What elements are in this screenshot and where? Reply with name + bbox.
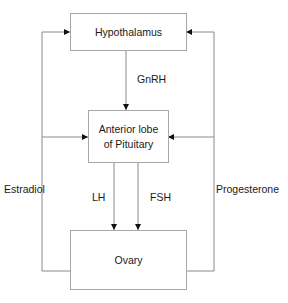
pituitary-label-line1: Anterior lobe	[99, 122, 159, 137]
progesterone-loop	[186, 32, 214, 271]
hypothalamus-label: Hypothalamus	[95, 25, 162, 40]
progesterone-label: Progesterone	[216, 183, 279, 195]
pituitary-label-line2: of Pituitary	[104, 137, 154, 152]
hypothalamus-node: Hypothalamus	[70, 13, 187, 51]
gnrh-label: GnRH	[137, 73, 166, 85]
fsh-label: FSH	[150, 191, 171, 203]
lh-label: LH	[92, 191, 105, 203]
ovary-label: Ovary	[114, 253, 142, 268]
estradiol-loop	[42, 32, 70, 271]
anterior-pituitary-node: Anterior lobe of Pituitary	[88, 110, 169, 163]
estradiol-label: Estradiol	[4, 183, 45, 195]
ovary-node: Ovary	[70, 230, 187, 290]
